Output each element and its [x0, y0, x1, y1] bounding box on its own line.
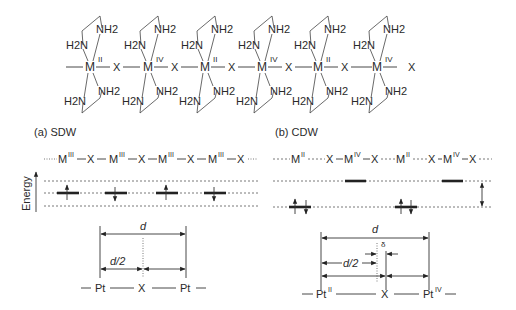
- pt-atom: Pt: [316, 288, 326, 300]
- sdw-chain: M III X M III X M III X M III X: [44, 151, 258, 165]
- bridge-atom: X: [228, 61, 236, 73]
- metal-atom: M: [85, 60, 95, 74]
- pt-atom: Pt: [95, 282, 105, 294]
- bridge-atom: X: [469, 153, 477, 165]
- bridge-atom: X: [428, 153, 436, 165]
- spin-level-up: [57, 185, 79, 200]
- energy-axis: Energy: [20, 172, 36, 212]
- ligand-nh2: NH2: [270, 85, 292, 97]
- mx-chain-structure: H2N NH2 NH2 H2N M II X H2N NH2 NH2 H2N M…: [64, 16, 416, 113]
- spin-level-down: [204, 187, 226, 201]
- ligand-nh2: NH2: [383, 23, 405, 35]
- oxidation-state: IV: [385, 55, 393, 64]
- half-distance-label: d/2: [343, 257, 358, 269]
- bridge-atom: X: [408, 61, 416, 73]
- oxidation-state: IV: [270, 55, 278, 64]
- ligand-nh2: NH2: [268, 23, 290, 35]
- bridge-atom: X: [87, 153, 95, 165]
- oxidation-state: IV: [156, 55, 164, 64]
- metal-atom: M: [344, 153, 353, 165]
- oxidation-state: II: [98, 55, 102, 64]
- oxidation-state: III: [68, 151, 74, 158]
- metal-atom: M: [200, 60, 210, 74]
- half-distance-label: d/2: [110, 255, 125, 267]
- spin-level-up: [156, 185, 178, 200]
- ligand-nh2: NH2: [96, 23, 118, 35]
- bridge-atom: X: [326, 153, 334, 165]
- oxidation-state: II: [328, 286, 332, 293]
- oxidation-state: IV: [354, 151, 361, 158]
- ligand-nh2: NH2: [211, 23, 233, 35]
- metal-unit-6: H2N NH2 NH2 H2N M IV X: [351, 16, 416, 113]
- shift-delta-label: δ: [381, 240, 386, 249]
- ligand-h2n: H2N: [66, 39, 88, 51]
- metal-atom: M: [143, 60, 153, 74]
- ligand-h2n: H2N: [294, 39, 316, 51]
- oxidation-state: III: [168, 151, 174, 158]
- ligand-h2n: H2N: [292, 95, 314, 107]
- bridge-atom: X: [285, 61, 293, 73]
- sdw-distance-schematic: d d/2 Pt X Pt: [81, 220, 206, 294]
- bridge-atom: X: [371, 153, 379, 165]
- panel-cdw: (b) CDW M II X M IV X M II X M IV X: [273, 126, 492, 300]
- panel-title: (a) SDW: [34, 126, 77, 138]
- ligand-nh2: NH2: [98, 85, 120, 97]
- metal-atom: M: [313, 60, 323, 74]
- distance-d-label: d: [372, 223, 379, 235]
- paired-level: [289, 199, 311, 214]
- metal-atom: M: [443, 153, 452, 165]
- oxidation-state: IV: [453, 151, 460, 158]
- bridge-atom: X: [187, 153, 195, 165]
- distance-d-label: d: [140, 220, 147, 232]
- ligand-h2n: H2N: [124, 39, 146, 51]
- metal-atom: M: [208, 153, 217, 165]
- ligand-h2n: H2N: [179, 95, 201, 107]
- ligand-h2n: H2N: [236, 95, 258, 107]
- oxidation-state: II: [213, 55, 217, 64]
- oxidation-state: II: [326, 55, 330, 64]
- panel-title: (b) CDW: [275, 126, 318, 138]
- ligand-h2n: H2N: [238, 39, 260, 51]
- metal-atom: M: [396, 153, 405, 165]
- bridge-atom: X: [138, 153, 146, 165]
- oxidation-state: IV: [435, 286, 442, 293]
- bridge-atom: X: [138, 282, 146, 294]
- metal-atom: M: [291, 153, 300, 165]
- metal-atom: M: [158, 153, 167, 165]
- paired-level: [395, 199, 417, 214]
- spin-level-down: [105, 187, 127, 201]
- energy-label: Energy: [20, 176, 32, 211]
- ligand-nh2: NH2: [324, 23, 346, 35]
- ligand-h2n: H2N: [353, 39, 375, 51]
- bridge-atom: X: [171, 61, 179, 73]
- oxidation-state: II: [301, 151, 305, 158]
- bridge-atom: X: [381, 288, 389, 300]
- cdw-distance-schematic: d δ d/2 Pt II X Pt IV: [302, 223, 456, 300]
- ligand-h2n: H2N: [122, 95, 144, 107]
- pt-atom: Pt: [180, 282, 190, 294]
- bridge-atom: X: [341, 61, 349, 73]
- oxidation-state: II: [406, 151, 410, 158]
- ligand-nh2: NH2: [326, 85, 348, 97]
- ligand-h2n: H2N: [351, 95, 373, 107]
- bridge-atom: X: [113, 61, 121, 73]
- ligand-h2n: H2N: [181, 39, 203, 51]
- metal-atom: M: [109, 153, 118, 165]
- bridge-atom: X: [237, 153, 245, 165]
- metal-atom: M: [257, 60, 267, 74]
- cdw-chain: M II X M IV X M II X M IV X: [273, 151, 492, 165]
- ligand-nh2: NH2: [213, 85, 235, 97]
- ligand-nh2: NH2: [154, 23, 176, 35]
- ligand-h2n: H2N: [64, 95, 86, 107]
- oxidation-state: III: [218, 151, 224, 158]
- pt-atom: Pt: [423, 288, 433, 300]
- ligand-nh2: NH2: [156, 85, 178, 97]
- metal-atom: M: [58, 153, 67, 165]
- oxidation-state: III: [119, 151, 125, 158]
- mx-chain-diagram: H2N NH2 NH2 H2N M II X H2N NH2 NH2 H2N M…: [0, 0, 516, 310]
- panel-sdw: (a) SDW M III X M III X M III X M III X: [20, 126, 260, 294]
- ligand-nh2: NH2: [385, 85, 407, 97]
- metal-atom: M: [372, 60, 382, 74]
